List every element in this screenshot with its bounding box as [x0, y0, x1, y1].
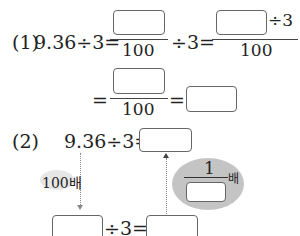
answer-box-3[interactable]	[113, 68, 165, 94]
bottom-divide-equals: ÷3=	[104, 218, 148, 236]
times-100-label: 100배	[42, 172, 82, 192]
fraction-bar-4	[184, 177, 228, 178]
equals-sign-1: =	[92, 90, 108, 110]
answer-box-7[interactable]	[52, 215, 103, 236]
problem-1-lhs: 9.36÷3=	[34, 32, 120, 52]
up-arrow-line	[166, 158, 167, 216]
denominator-1: 100	[122, 42, 154, 58]
answer-box-2[interactable]	[216, 10, 267, 35]
problem-2-label: (2)	[12, 131, 39, 151]
answer-box-1[interactable]	[113, 10, 165, 35]
answer-box-6[interactable]	[186, 182, 226, 202]
denominator-3: 100	[122, 101, 154, 117]
divide-three-numerator: ÷3	[268, 10, 293, 30]
down-arrow-icon	[77, 205, 83, 210]
fraction-suffix: 배	[228, 169, 239, 186]
fraction-numerator: 1	[204, 160, 215, 176]
divide-equals-1: ÷3=	[171, 32, 215, 52]
equals-sign-2: =	[169, 90, 185, 110]
answer-box-8[interactable]	[146, 215, 198, 236]
problem-2-lhs: 9.36÷3=	[64, 131, 150, 151]
up-arrow-icon	[163, 153, 169, 158]
denominator-2: 100	[240, 42, 272, 58]
answer-box-4[interactable]	[186, 86, 237, 112]
answer-box-5[interactable]	[139, 128, 192, 152]
